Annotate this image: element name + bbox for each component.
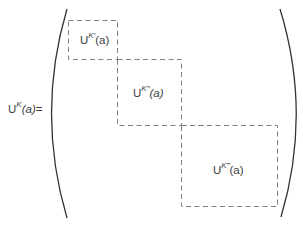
block-2-superscript: K″ [141,84,149,93]
right-parenthesis [280,9,296,217]
block-1-label: UK′(a) [80,35,109,47]
equals-sign: = [36,103,43,115]
block-2-argument: (a) [149,87,163,99]
block-1-argument: (a) [95,34,109,46]
lhs-superscript: K [16,100,21,109]
block-3-label: UK‴(a) [213,165,244,177]
lhs-label: UK(a)= [8,104,42,116]
lhs-argument: (a) [22,103,36,115]
block-2-label: UK″(a) [133,88,164,100]
block-diagonal-matrix-diagram [0,0,303,226]
block-1-superscript: K′ [88,31,95,40]
left-parenthesis [52,9,68,218]
block-3-superscript: K‴ [221,161,229,170]
block-3-argument: (a) [229,164,243,176]
